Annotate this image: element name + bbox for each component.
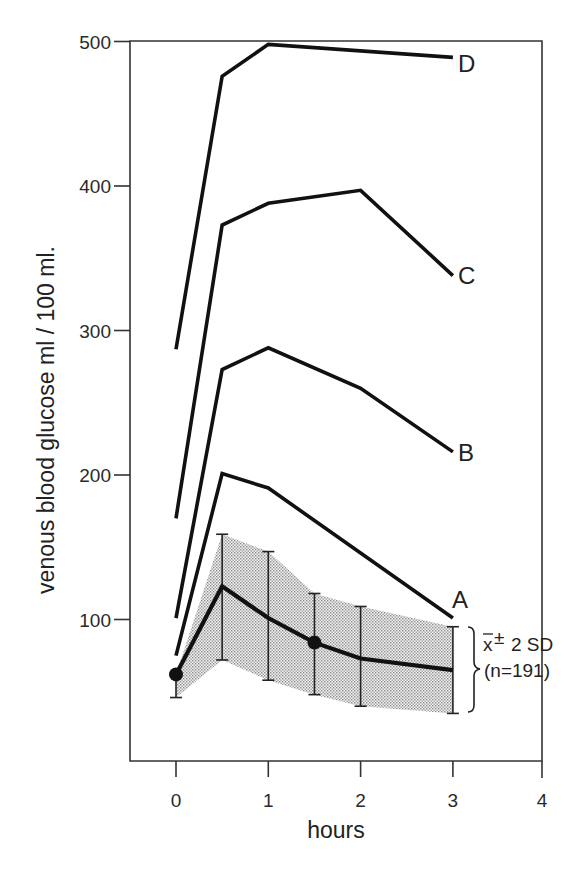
x-tick-label: 2 <box>355 790 366 811</box>
mean-dot-marker <box>307 636 321 650</box>
curve-label-d: D <box>458 50 475 77</box>
legend-xbar: x <box>483 634 493 655</box>
legend-plusminus: ± <box>494 627 504 648</box>
x-axis-title: hours <box>307 817 365 843</box>
glucose-tolerance-chart: 100200300400500 01234 D C B A x ± 2 SD (… <box>0 0 582 869</box>
curve-label-a: A <box>452 586 468 613</box>
y-tick-label: 300 <box>79 321 111 342</box>
y-tick-label: 400 <box>79 176 111 197</box>
legend-2sd: 2 SD <box>511 634 553 655</box>
curve-label-b: B <box>458 439 474 466</box>
curve-c <box>176 190 453 518</box>
x-tick-label: 0 <box>171 790 182 811</box>
x-tick-label: 4 <box>537 790 548 811</box>
mean-dot-marker <box>169 667 183 681</box>
sd-legend: x ± 2 SD (n=191) <box>468 627 553 712</box>
legend-n: (n=191) <box>484 660 550 681</box>
y-tick-label: 500 <box>79 32 111 53</box>
curve-label-c: C <box>458 262 475 289</box>
y-tick-label: 200 <box>79 465 111 486</box>
y-axis: 100200300400500 <box>79 32 130 631</box>
x-tick-label: 3 <box>448 790 459 811</box>
y-axis-title: venous blood glucose ml / 100 ml. <box>33 246 59 594</box>
x-tick-label: 1 <box>263 790 274 811</box>
x-axis: 01234 <box>171 761 548 811</box>
y-tick-label: 100 <box>79 610 111 631</box>
brace-icon <box>468 627 480 712</box>
